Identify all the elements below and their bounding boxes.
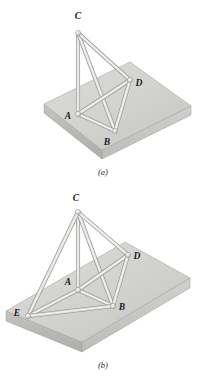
joint-D: [127, 77, 132, 82]
joint-C: [75, 30, 80, 35]
node-label-A-b: A: [64, 277, 71, 287]
joint-D: [125, 252, 130, 257]
node-label-C-a: C: [75, 11, 82, 21]
panel-caption-b: (b): [98, 360, 108, 370]
panel-a: CABD(a): [44, 11, 191, 177]
figure-container: CABD(a)CABDE(b): [0, 0, 210, 380]
node-label-C-b: C: [73, 193, 80, 203]
joint-E: [25, 313, 30, 318]
node-label-B-a: B: [103, 137, 110, 147]
joint-C: [75, 209, 80, 214]
truss-figure-svg: CABD(a)CABDE(b): [0, 0, 210, 380]
joint-B: [110, 303, 115, 308]
joint-B: [112, 128, 117, 133]
node-label-E-b: E: [13, 308, 20, 318]
joint-A: [75, 111, 80, 116]
joint-A: [75, 287, 80, 292]
panel-b: CABDE(b): [6, 193, 190, 370]
panel-caption-a: (a): [98, 167, 108, 177]
node-label-D-b: D: [133, 251, 141, 261]
node-label-B-b: B: [118, 302, 125, 312]
node-label-A-a: A: [64, 111, 71, 121]
node-label-D-a: D: [135, 78, 143, 88]
slab-top: [44, 62, 191, 150]
